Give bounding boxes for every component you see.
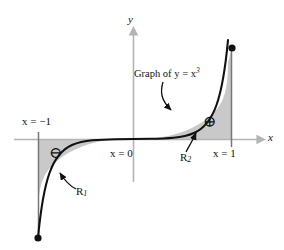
label-x-neg-one-text: x = −1 [22, 115, 51, 127]
y-axis-label: y [128, 14, 133, 25]
curve-label: Graph of y = x3 [134, 67, 200, 80]
leader-r1 [60, 173, 76, 189]
label-x-equals-zero: x = 0 [110, 148, 133, 159]
region-1-subscript: 1 [83, 189, 87, 198]
label-x-equals-one: x = 1 [213, 148, 236, 159]
x-axis-label: x [268, 132, 273, 143]
label-x-equals-neg-one: x = −1 [22, 116, 51, 127]
figure-cubic-signed-area: y x x = −1 x = 0 x = 1 Graph of y = x3 R… [0, 0, 284, 250]
endpoint-dot-right [228, 44, 235, 51]
curve-label-eq: = [180, 68, 191, 79]
label-x-one-text: x = 1 [213, 147, 236, 159]
region-2-label: R2 [180, 152, 191, 164]
leader-curve-label [162, 82, 171, 110]
shaded-region-r2 [133, 48, 232, 139]
region-1-label: R1 [76, 186, 87, 198]
label-x-zero-text: x = 0 [110, 147, 133, 159]
curve-label-exponent: 3 [196, 66, 200, 75]
region-2-subscript: 2 [187, 155, 191, 164]
curve-label-prefix: Graph of [134, 68, 174, 79]
endpoint-dot-left [34, 234, 41, 241]
minus-sign-symbol: ⊖ [49, 145, 62, 161]
plus-sign-symbol: ⊕ [203, 114, 216, 130]
